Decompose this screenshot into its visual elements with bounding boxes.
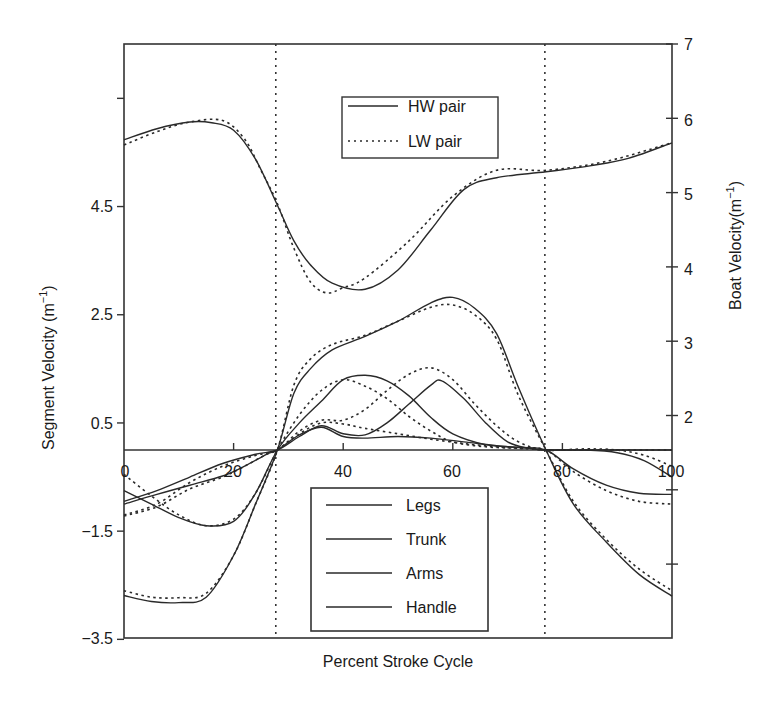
- left-tick-neg-1-5: −1.5: [81, 523, 113, 540]
- right-tick-5: 5: [684, 186, 693, 203]
- left-tick-neg-3-5: −3.5: [81, 630, 113, 647]
- legend-boat: HW pair LW pair: [342, 97, 498, 158]
- right-tick-7: 7: [684, 36, 693, 53]
- legend-legs-label: Legs: [406, 497, 441, 514]
- right-axis-title-text: Boat Velocity(m: [727, 199, 744, 310]
- right-axis-labels: 7 6 5 4 3 2: [684, 36, 693, 426]
- svg-text:Segment Velocity (m−1): Segment Velocity (m−1): [37, 285, 57, 450]
- left-axis-title-close: ): [40, 285, 57, 290]
- right-tick-3: 3: [684, 335, 693, 352]
- right-axis-title-sup: −1: [724, 186, 736, 199]
- legend-segments: Legs Trunk Arms Handle: [311, 488, 488, 631]
- right-tick-6: 6: [684, 112, 693, 129]
- x-axis-title: Percent Stroke Cycle: [323, 653, 473, 670]
- x-tick-60: 60: [443, 463, 461, 480]
- right-tick-4: 4: [684, 261, 693, 278]
- legend-hw-label: HW pair: [408, 98, 466, 115]
- left-axis-labels: 4.5 2.5 0.5 −1.5 −3.5: [81, 198, 113, 647]
- left-tick-2-5: 2.5: [91, 306, 113, 323]
- right-axis-title-close: ): [727, 181, 744, 186]
- legend-trunk-label: Trunk: [406, 531, 447, 548]
- x-tick-80: 80: [553, 463, 571, 480]
- left-tick-0-5: 0.5: [91, 415, 113, 432]
- legend-arms-label: Arms: [406, 565, 443, 582]
- x-axis-labels: 0 20 40 60 80 100: [121, 463, 685, 480]
- x-tick-0: 0: [121, 463, 130, 480]
- x-tick-40: 40: [334, 463, 352, 480]
- x-tick-20: 20: [224, 463, 242, 480]
- legend-lw-label: LW pair: [408, 133, 463, 150]
- svg-text:Boat Velocity(m−1): Boat Velocity(m−1): [724, 181, 744, 310]
- left-axis-title-text: Segment Velocity (m: [40, 303, 57, 450]
- left-axis-title-sup: −1: [37, 291, 49, 304]
- chart: 4.5 2.5 0.5 −1.5 −3.5 7 6 5 4 3 2 0 20 4…: [0, 0, 759, 703]
- x-tick-100: 100: [658, 463, 685, 480]
- trunk-hw-curve: [124, 380, 672, 501]
- legend-handle-label: Handle: [406, 599, 457, 616]
- left-axis-title: Segment Velocity (m−1): [37, 285, 57, 450]
- left-tick-4-5: 4.5: [91, 198, 113, 215]
- right-tick-2: 2: [684, 409, 693, 426]
- right-axis-title: Boat Velocity(m−1): [724, 181, 744, 310]
